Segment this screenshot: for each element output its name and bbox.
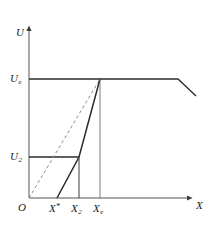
y-tick-u2-main: U [10, 150, 18, 162]
x-tick-xe-main: X [93, 202, 100, 214]
saturation-envelope-curve [29, 79, 196, 96]
origin-label: O [18, 202, 26, 213]
figure-container: U Ue U2 O X* X2 Xe X [0, 0, 211, 230]
x-tick-label-x2: X2 [71, 203, 81, 214]
plot-canvas [0, 0, 211, 230]
y-tick-ue-main: U [10, 72, 18, 84]
x-tick-label-xe: Xe [93, 203, 103, 214]
y-tick-ue-sub: e [18, 78, 21, 86]
ideal-reference-dashed-line [29, 79, 100, 198]
y-tick-label-ue: Ue [10, 73, 21, 84]
x-tick-x2-main: X [71, 202, 78, 214]
y-tick-label-u2: U2 [10, 151, 21, 162]
x-tick-x2-sub: 2 [78, 208, 82, 216]
x-axis-title: X [196, 200, 203, 211]
x-tick-xe-sub: e [100, 208, 103, 216]
x-tick-xstar-sup: * [56, 202, 60, 211]
y-axis-title: U [16, 27, 24, 38]
y-tick-u2-sub: 2 [18, 156, 22, 164]
x-tick-xstar-main: X [49, 202, 56, 214]
x-tick-label-xstar: X* [49, 203, 60, 214]
